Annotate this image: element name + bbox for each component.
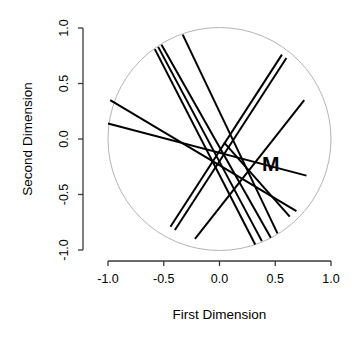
x-tick-label-2: 0.0 [211,272,228,286]
y-tick-label-1: -0.5 [57,184,71,206]
y-tick-label-3: 0.5 [57,75,71,92]
y-tick-label-2: 0.0 [57,130,71,147]
y-axis-title: Second Dimension [20,82,35,195]
point-labels-group: M [262,152,280,175]
unit-circle-direction-plot: M -1.0 -0.5 0.0 0.5 1.0 First Dimension [0,0,358,339]
x-axis-title: First Dimension [173,307,267,322]
x-tick-label-1: -0.5 [153,272,175,286]
chart-background [0,0,358,339]
y-tick-label-4: 1.0 [57,19,71,36]
point-label-m: M [262,152,280,175]
chart-container: M -1.0 -0.5 0.0 0.5 1.0 First Dimension [0,0,358,339]
x-tick-label-3: 0.5 [267,272,284,286]
y-tick-label-0: -1.0 [57,239,71,261]
x-tick-label-0: -1.0 [97,272,119,286]
x-tick-label-4: 1.0 [322,272,339,286]
